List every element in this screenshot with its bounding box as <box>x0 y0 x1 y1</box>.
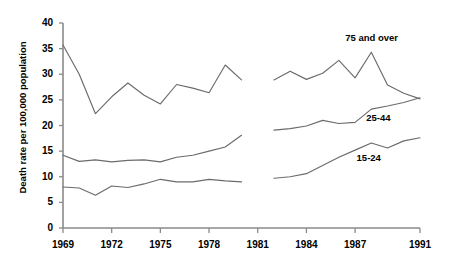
series-line-25-44-seg1 <box>274 98 420 130</box>
series-line-75-and-over-seg0 <box>63 45 242 114</box>
line-chart: Death rate per 100,000 population 051015… <box>0 0 453 263</box>
axes <box>59 23 420 233</box>
series-line-15-24-seg1 <box>274 138 420 178</box>
series-line-75-and-over-seg1 <box>274 52 420 99</box>
plot-area <box>0 0 453 263</box>
series-line-15-24-seg0 <box>63 179 242 195</box>
series-line-25-44-seg0 <box>63 135 242 162</box>
data-series <box>63 45 420 195</box>
